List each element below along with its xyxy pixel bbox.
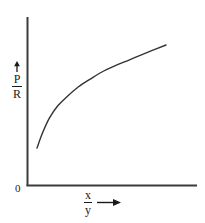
- y-axis-label-denominator: R: [12, 88, 22, 100]
- right-arrow-icon: [97, 198, 121, 207]
- x-axis-label-fraction: x y: [84, 189, 92, 216]
- x-axis-label-denominator: y: [84, 204, 92, 216]
- y-axis-label-fraction: P R: [12, 73, 22, 100]
- up-arrow-icon: [6, 61, 28, 72]
- origin-label: 0: [15, 183, 21, 194]
- x-axis-label-group: x y: [84, 189, 121, 216]
- y-axis-label-numerator: P: [12, 73, 22, 85]
- y-axis-label-group: P R: [6, 61, 28, 101]
- figure-container: P R x y 0: [0, 0, 205, 223]
- data-curve-p-over-r: [37, 45, 166, 148]
- x-axis-label-numerator: x: [84, 189, 92, 201]
